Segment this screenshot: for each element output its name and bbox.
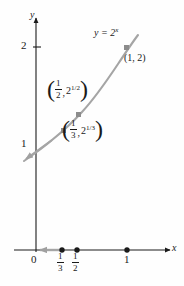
curve-equation-base: y = 2 — [94, 27, 115, 38]
x-axis-dot-one — [124, 247, 129, 252]
exponential-function-graph: y x 2 1 0 1 1 3 1 2 y = 2x (1, 2) ( 1 2 — [0, 0, 184, 286]
fraction-numerator: 1 — [70, 119, 77, 128]
y-tick-label-1: 1 — [21, 138, 27, 149]
power-expression: 21/3 — [81, 124, 95, 136]
x-tick-label-one-third: 1 3 — [57, 252, 64, 273]
power-exponent: 1/2 — [71, 84, 80, 92]
x-tick-label-one-half: 1 2 — [72, 252, 79, 273]
y-tick-label-2: 2 — [21, 40, 27, 51]
curve-equation-label: y = 2x — [94, 27, 118, 38]
coordinate-label-third: ( 1 3 , 21/3 ) — [62, 119, 103, 141]
fraction-denominator: 3 — [70, 131, 77, 140]
comma-separator: , — [63, 87, 66, 100]
point-label-one-two: (1, 2) — [124, 53, 146, 63]
fraction-numerator: 1 — [72, 252, 79, 261]
curve-direction-arrow — [26, 140, 52, 159]
curve-marker-half — [76, 112, 81, 117]
x-axis-label: x — [172, 243, 176, 253]
open-paren: ( — [47, 79, 55, 101]
x-tick-label-1: 1 — [124, 254, 130, 265]
fraction-denominator: 2 — [72, 264, 79, 273]
comma-separator: , — [78, 127, 81, 140]
close-paren: ) — [95, 119, 103, 141]
fraction-numerator: 1 — [57, 252, 64, 261]
fraction-denominator: 3 — [57, 264, 64, 273]
fraction-numerator: 1 — [55, 79, 62, 88]
power-exponent: 1/3 — [86, 124, 95, 132]
power-expression: 21/2 — [66, 84, 80, 96]
y-axis-label: y — [30, 10, 34, 20]
fraction-denominator: 2 — [55, 91, 62, 100]
close-paren: ) — [80, 79, 88, 101]
origin-label: 0 — [31, 254, 37, 265]
graph-canvas — [0, 0, 184, 286]
curve-equation-exponent: x — [115, 26, 118, 34]
coordinate-label-half: ( 1 2 , 21/2 ) — [47, 79, 88, 101]
open-paren: ( — [62, 119, 70, 141]
curve-marker-one — [124, 45, 129, 50]
